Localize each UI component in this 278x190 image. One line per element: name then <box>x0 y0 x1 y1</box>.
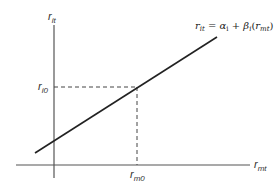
y-axis-label: rit <box>48 10 56 25</box>
diagram-canvas: rit ri0 rm0 rmt rit = αi + βi(rmt) <box>0 0 278 190</box>
x-marker-label: rm0 <box>130 168 145 183</box>
regression-equation: rit = αi + βi(rmt) <box>195 20 274 33</box>
y-marker-label: ri0 <box>38 80 48 95</box>
x-axis-label: rmt <box>254 158 267 173</box>
characteristic-line <box>35 37 217 153</box>
